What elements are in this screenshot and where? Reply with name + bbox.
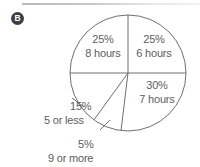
figure-panel: B 25% 8 hours 25% 6 hours 30% 7 hours 15… [0,0,200,167]
pie-label-9-or-more: 5% 9 or more [48,138,94,165]
pie-label-5-or-less-category: 5 or less [44,114,91,128]
pie-label-6-hours-percent: 25% [131,33,177,47]
pie-label-5-or-less-percent: 15% [44,100,91,114]
pie-label-9-or-more-percent: 5% [48,138,94,152]
pie-label-8-hours-category: 8 hours [80,47,126,61]
pie-label-7-hours-percent: 30% [134,79,180,93]
pie-label-8-hours: 25% 8 hours [80,33,126,60]
pie-label-7-hours: 30% 7 hours [134,79,180,106]
pie-label-6-hours-category: 6 hours [131,47,177,61]
pie-label-9-or-more-category: 9 or more [48,152,94,166]
pie-label-7-hours-category: 7 hours [134,93,180,107]
pie-label-8-hours-percent: 25% [80,33,126,47]
pie-label-5-or-less: 15% 5 or less [44,100,91,127]
pie-label-6-hours: 25% 6 hours [131,33,177,60]
